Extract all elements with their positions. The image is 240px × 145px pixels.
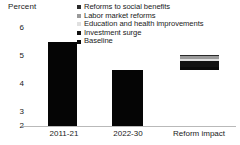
- legend-swatch-icon: [77, 40, 81, 44]
- y-axis-title: Percent: [8, 2, 36, 12]
- x-axis-tick-labels: 2011-21 2022-30 Reform impact: [0, 129, 240, 143]
- legend-item-label: Baseline: [84, 37, 113, 46]
- x-tick-label-reform-impact: Reform impact: [162, 129, 236, 139]
- stack-segment-baseline: [180, 67, 219, 70]
- y-axis-tick-labels: 6 5 4 3 2: [0, 14, 24, 126]
- y-tick-label-6: 6: [4, 24, 24, 32]
- y-tick-label-4: 4: [4, 80, 24, 88]
- legend-swatch-icon: [77, 31, 81, 35]
- x-tick-label-2011-21: 2011-21: [34, 129, 94, 139]
- bar-2022-30[interactable]: [112, 70, 143, 126]
- y-tick-label-5: 5: [4, 52, 24, 60]
- bar-2011-21[interactable]: [48, 42, 77, 126]
- bar-reform-impact[interactable]: [180, 55, 219, 70]
- chart-container: Percent 6 5 4 3 2 2011-21 2022-30 Reform…: [0, 0, 240, 145]
- legend-swatch-icon: [77, 5, 81, 9]
- chart-legend: Reforms to social benefits Labor market …: [77, 3, 204, 46]
- x-tick-label-2022-30: 2022-30: [98, 129, 158, 139]
- y-tick-label-3: 3: [4, 108, 24, 116]
- legend-swatch-icon: [77, 22, 81, 26]
- x-axis-line: [22, 126, 236, 127]
- legend-swatch-icon: [77, 14, 81, 18]
- legend-item-baseline[interactable]: Baseline: [77, 37, 204, 46]
